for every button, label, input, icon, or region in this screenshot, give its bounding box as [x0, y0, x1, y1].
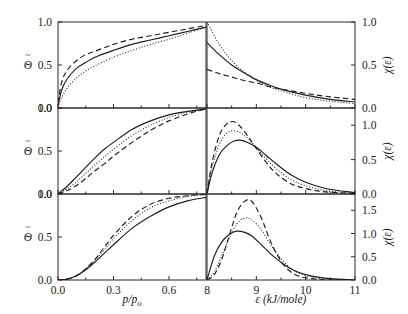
left-y-axis-accent: ~ — [26, 222, 31, 232]
right-y-axis-title: χ(ε) — [381, 142, 394, 160]
left-y-axis-title: Θ — [24, 231, 33, 243]
x-tick-label: 11 — [349, 284, 360, 296]
curve-DA-left-dashed — [58, 194, 206, 280]
y-tick-label: 0.5 — [362, 154, 377, 166]
curve-F-right-dashed — [207, 69, 355, 99]
x-tick-label: 0.0 — [51, 284, 66, 296]
curve-DR-left-dotted — [58, 109, 206, 194]
left-x-axis-title: p/po — [122, 293, 142, 308]
y-tick-label: 0.5 — [362, 59, 377, 71]
axis-titles: p/poε (kJ/mole) — [122, 293, 307, 308]
y-tick-label: 1.0 — [38, 16, 53, 28]
y-tick-label: 1.0 — [362, 119, 377, 131]
axes-frame — [58, 194, 206, 280]
y-tick-label: 1.0 — [362, 16, 377, 28]
y-tick-label: 0.0 — [362, 188, 377, 200]
y-tick-label: 0.5 — [38, 59, 53, 71]
panel-DR-right: 0.00.51.0χ(ε) — [207, 108, 394, 200]
figure-panel-grid: 0.00.51.0Θ~0.00.51.0χ(ε)0.00.51.0Θ~0.00.… — [0, 0, 408, 314]
left-y-axis-accent: ~ — [26, 50, 31, 60]
right-y-axis-title: χ(ε) — [381, 56, 394, 74]
panel-F-left: 0.00.51.0Θ~ — [24, 16, 206, 114]
curve-DR-right-solid — [207, 140, 355, 194]
panel-DA-right: 0.00.51.01.5χ(ε)891011 — [204, 194, 394, 296]
y-tick-label: 1.0 — [38, 188, 53, 200]
panel-DA-left: 0.00.51.0Θ~0.00.30.6 — [24, 188, 206, 296]
x-tick-label: 0.6 — [162, 284, 177, 296]
axes-frame — [207, 194, 355, 280]
curve-DA-right-dashed — [207, 200, 355, 281]
y-tick-label: 0.5 — [38, 231, 53, 243]
y-tick-label: 0.0 — [362, 274, 377, 286]
y-tick-label: 1.0 — [38, 102, 53, 114]
left-y-axis-title: Θ — [24, 59, 33, 71]
curve-DR-left-solid — [58, 109, 206, 194]
y-tick-label: 1.0 — [362, 228, 377, 240]
panel-F-right: 0.00.51.0χ(ε) — [207, 16, 394, 114]
curve-DR-left-dashed — [58, 109, 206, 194]
curve-DR-right-dotted — [207, 131, 355, 194]
left-y-axis-accent: ~ — [26, 136, 31, 146]
left-y-axis-title: Θ — [24, 145, 33, 157]
axes-frame — [207, 108, 355, 194]
panel-DR-left: 0.00.51.0Θ~ — [24, 102, 206, 200]
right-x-axis-title: ε (kJ/mole) — [256, 293, 307, 306]
x-tick-label: 0.3 — [106, 284, 121, 296]
multi-panel-plot: 0.00.51.0Θ~0.00.51.0χ(ε)0.00.51.0Θ~0.00.… — [0, 0, 408, 314]
y-tick-label: 0.5 — [362, 251, 377, 263]
curve-DA-left-solid — [58, 197, 206, 280]
curve-DA-right-dotted — [207, 218, 355, 280]
y-tick-label: 0.5 — [38, 145, 53, 157]
curve-DA-right-solid — [207, 231, 355, 280]
curve-DA-left-dotted — [58, 195, 206, 280]
x-tick-label: 8 — [204, 284, 210, 296]
y-tick-label: 1.5 — [362, 204, 377, 216]
curve-DR-right-dashed — [207, 121, 355, 194]
axes-frame — [207, 22, 355, 108]
axes-frame — [58, 108, 206, 194]
curve-F-right-solid — [207, 43, 355, 102]
y-tick-label: 0.0 — [362, 102, 377, 114]
curve-F-left-dashed — [58, 25, 206, 102]
right-y-axis-title: χ(ε) — [381, 228, 394, 246]
